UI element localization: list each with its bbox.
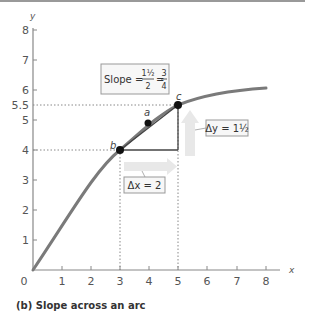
figure-caption: (b) Slope across an arc [16,300,146,311]
delta-x-arrow [124,158,177,175]
x-tick-labels: 0 1 2 3 4 5 6 7 8 [21,275,270,288]
y-tick-1: 1 [22,234,29,247]
y-tick-labels: 1 2 3 4 5 5.5 6 7 8 [12,24,30,247]
x-tick-8: 8 [263,275,270,288]
y-tick-5-5: 5.5 [12,99,30,112]
slope-label: Slope = [104,74,143,85]
point-c-label: c [176,91,182,102]
slope-den: 2 [145,82,150,91]
point-a [145,120,152,127]
x-tick-6: 6 [204,275,211,288]
slope-annotation: Slope = 1½ 2 = 3 4 [101,64,169,94]
x-tick-3: 3 [117,275,124,288]
slope-num: 1½ [142,69,155,78]
point-b [116,146,124,154]
y-tick-6: 6 [22,84,29,97]
delta-y-label: Δy = 1½ [205,123,249,134]
origin-label: 0 [21,275,28,288]
y-tick-3: 3 [22,174,29,187]
delta-x-label: Δx = 2 [128,180,162,191]
y-tick-5: 5 [22,114,29,127]
y-tick-8: 8 [22,24,29,37]
y-tick-7: 7 [22,54,29,67]
y-axis-label: y [29,11,36,21]
x-tick-5: 5 [175,275,182,288]
x-tick-2: 2 [88,275,95,288]
x-axis-label: x [288,265,295,275]
y-tick-4: 4 [22,144,29,157]
delta-y-arrow [181,110,199,156]
point-b-label: b [110,140,116,151]
delta-y-annotation: Δy = 1½ [195,120,249,136]
x-tick-7: 7 [234,275,241,288]
slope-simplified-num: 3 [161,69,166,78]
x-tick-1: 1 [59,275,66,288]
slope-simplified-den: 4 [161,82,166,91]
chart-figure: 1 2 3 4 5 5.5 6 7 8 y 0 1 2 3 4 5 6 7 8 … [0,0,309,314]
delta-x-annotation: Δx = 2 [124,171,165,193]
point-a-label: a [144,107,150,118]
x-tick-4: 4 [146,275,153,288]
y-tick-2: 2 [22,204,29,217]
point-c [174,101,182,109]
